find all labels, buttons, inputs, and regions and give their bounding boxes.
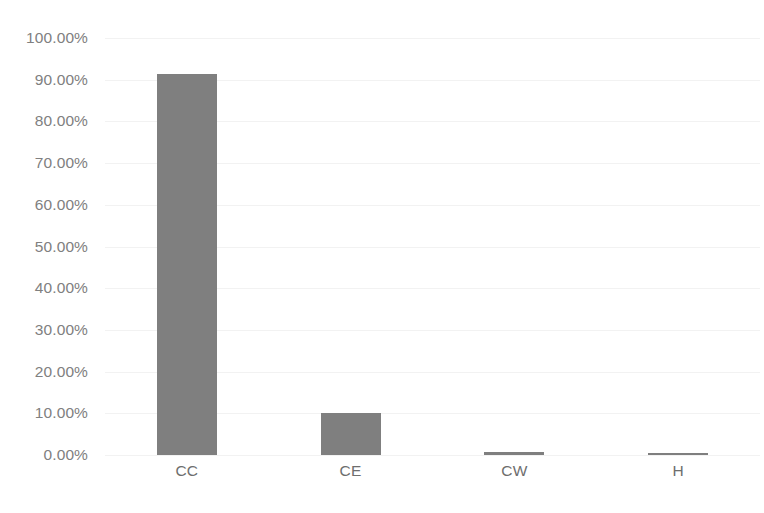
gridline bbox=[105, 455, 760, 456]
bars-layer bbox=[105, 38, 760, 455]
y-tick-label: 30.00% bbox=[35, 321, 88, 339]
plot-area bbox=[105, 38, 760, 455]
x-tick-label-h: H bbox=[672, 462, 684, 480]
bar-chart: 0.00%10.00%20.00%30.00%40.00%50.00%60.00… bbox=[0, 0, 764, 513]
y-tick-label: 100.00% bbox=[26, 29, 88, 47]
x-tick-label-cc: CC bbox=[175, 462, 198, 480]
y-axis: 0.00%10.00%20.00%30.00%40.00%50.00%60.00… bbox=[0, 0, 100, 513]
y-tick-label: 70.00% bbox=[35, 154, 88, 172]
bar-cw bbox=[484, 452, 544, 455]
y-tick-label: 50.00% bbox=[35, 238, 88, 256]
y-tick-label: 80.00% bbox=[35, 112, 88, 130]
y-tick-label: 10.00% bbox=[35, 404, 88, 422]
x-tick-label-ce: CE bbox=[340, 462, 362, 480]
bar-cc bbox=[157, 74, 217, 455]
x-tick-label-cw: CW bbox=[501, 462, 527, 480]
x-axis: CCCECWH bbox=[105, 462, 760, 492]
bar-h bbox=[648, 453, 708, 455]
y-tick-label: 0.00% bbox=[44, 446, 88, 464]
y-tick-label: 60.00% bbox=[35, 196, 88, 214]
y-tick-label: 20.00% bbox=[35, 363, 88, 381]
y-tick-label: 90.00% bbox=[35, 71, 88, 89]
bar-ce bbox=[321, 413, 381, 455]
y-tick-label: 40.00% bbox=[35, 279, 88, 297]
